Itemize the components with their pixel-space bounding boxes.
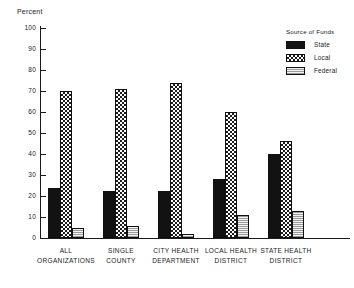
y-axis-tick-label: 40 [16,151,36,158]
y-axis-tick-label-wrap: 0 [0,235,36,242]
y-axis-tick-label: 10 [16,214,36,221]
bar-group [213,0,249,238]
bar-local [115,89,127,238]
y-axis-tick-label-wrap: 100 [0,25,36,32]
y-axis-tick-label-wrap: 60 [0,109,36,116]
y-axis-tick-label: 50 [16,130,36,137]
y-axis-tick-label: 0 [16,235,36,242]
bar-state [158,191,170,238]
bar-local [60,91,72,238]
y-axis-tick-label-wrap: 10 [0,214,36,221]
x-axis-category-line: DISTRICT [249,256,323,266]
y-axis-tick-label: 90 [16,46,36,53]
bar-state [103,191,115,238]
y-axis-tick-label-wrap: 40 [0,151,36,158]
legend-label-state: State [314,41,330,48]
y-axis-tick-label-wrap: 70 [0,88,36,95]
bar-local [225,112,237,238]
bar-chart: Percent 1009080706050403020100 ALLORGANI… [0,0,354,288]
bar-federal [292,211,304,238]
bar-federal [237,215,249,238]
y-axis-tick-label: 70 [16,88,36,95]
y-axis-tick-label: 30 [16,172,36,179]
y-axis-tick-label-wrap: 30 [0,172,36,179]
bar-federal [182,234,194,238]
y-axis-tick-label: 20 [16,193,36,200]
x-axis-category-label: STATE HEALTHDISTRICT [249,246,323,265]
y-axis-tick-label-wrap: 50 [0,130,36,137]
bar-group [158,0,194,238]
x-axis-category-line: STATE HEALTH [249,246,323,256]
bar-state [48,188,60,238]
bar-local [170,83,182,238]
y-axis-tick-label: 60 [16,109,36,116]
legend-label-local: Local [314,54,330,61]
y-axis-tick-label-wrap: 90 [0,46,36,53]
bar-state [213,179,225,238]
bar-group [103,0,139,238]
bar-federal [72,228,84,239]
y-axis-tick-label: 100 [16,25,36,32]
y-axis-tick-label-wrap: 20 [0,193,36,200]
bar-group [48,0,84,238]
legend-label-federal: Federal [314,67,337,74]
y-axis-title: Percent [17,8,43,15]
bar-state [268,154,280,238]
y-axis-tick-label-wrap: 80 [0,67,36,74]
bar-local [280,141,292,238]
y-axis-tick-label: 80 [16,67,36,74]
bar-group [268,0,304,238]
bar-federal [127,226,139,238]
